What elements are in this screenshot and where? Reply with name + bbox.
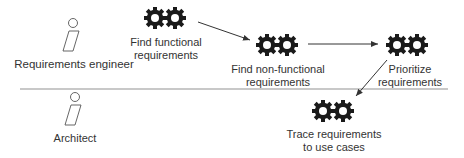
flow-arrows bbox=[0, 0, 464, 158]
flow-arrow-1-2 bbox=[198, 22, 250, 40]
flow-arrow-3-4 bbox=[356, 60, 387, 96]
